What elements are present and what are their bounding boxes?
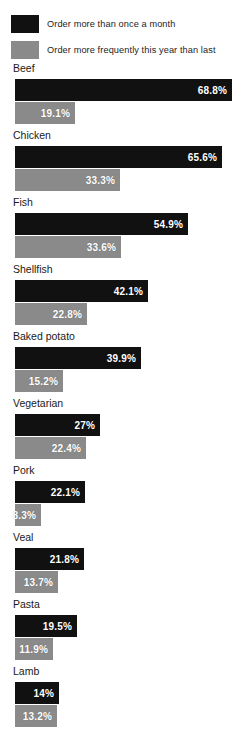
bar-group: Chicken65.6%33.3%	[0, 129, 247, 196]
bar-value-label: 42.1%	[114, 286, 143, 297]
category-label: Pork	[13, 464, 35, 477]
bar-group: Beef68.8%19.1%	[0, 62, 247, 129]
bar-value-label: 33.6%	[87, 242, 116, 253]
bar-group: Pork22.1%8.3%	[0, 464, 247, 531]
bar-value-label: 54.9%	[154, 219, 183, 230]
bar-value-label: 21.8%	[50, 554, 79, 565]
bar-value-label: 68.8%	[198, 85, 227, 96]
bar-value-label: 27%	[74, 420, 95, 431]
bar-value-label: 13.7%	[24, 577, 53, 588]
bar-group: Fish54.9%33.6%	[0, 196, 247, 263]
legend-item-secondary: Order more frequently this year than las…	[0, 40, 247, 60]
bar-value-label: 19.1%	[41, 108, 70, 119]
bar-secondary: 33.3%	[15, 169, 120, 191]
bar-value-label: 11.9%	[19, 644, 48, 655]
bar-value-label: 22.1%	[51, 487, 80, 498]
category-label: Baked potato	[13, 330, 75, 343]
category-label: Pasta	[13, 598, 40, 611]
bar-primary: 19.5%	[15, 615, 77, 637]
bar-primary: 22.1%	[15, 481, 85, 503]
bar-secondary: 22.8%	[15, 303, 87, 325]
bar-value-label: 22.4%	[52, 443, 81, 454]
bar-secondary: 22.4%	[15, 437, 86, 459]
bar-primary: 27%	[15, 414, 100, 436]
bar-value-label: 65.6%	[188, 152, 217, 163]
category-label: Chicken	[13, 129, 51, 142]
bar-primary: 42.1%	[15, 280, 148, 302]
bar-value-label: 15.2%	[29, 376, 58, 387]
bar-secondary: 8.3%	[15, 504, 41, 526]
bar-primary: 68.8%	[15, 79, 232, 101]
bar-primary: 21.8%	[15, 548, 84, 570]
bar-group: Lamb14%13.2%	[0, 665, 247, 731]
legend-item-primary: Order more than once a month	[0, 14, 247, 34]
bar-value-label: 33.3%	[86, 175, 115, 186]
bar-primary: 54.9%	[15, 213, 188, 235]
bar-value-label: 39.9%	[107, 353, 136, 364]
chart-legend: Order more than once a month Order more …	[0, 14, 247, 66]
legend-swatch-secondary-icon	[11, 41, 39, 59]
bar-secondary: 11.9%	[15, 638, 53, 660]
bar-secondary: 13.7%	[15, 571, 58, 593]
bar-value-label: 13.2%	[23, 711, 52, 722]
bar-primary: 65.6%	[15, 146, 222, 168]
bar-value-label: 22.8%	[53, 309, 82, 320]
category-label: Shellfish	[13, 263, 53, 276]
bar-secondary: 19.1%	[15, 102, 75, 124]
bar-group-list: Beef68.8%19.1%Chicken65.6%33.3%Fish54.9%…	[0, 62, 247, 731]
bar-secondary: 33.6%	[15, 236, 121, 258]
category-label: Lamb	[13, 665, 39, 678]
bar-secondary: 13.2%	[15, 705, 57, 727]
category-label: Veal	[13, 531, 33, 544]
bar-group: Shellfish42.1%22.8%	[0, 263, 247, 330]
bar-group: Pasta19.5%11.9%	[0, 598, 247, 665]
legend-label-primary: Order more than once a month	[47, 19, 175, 30]
legend-swatch-primary-icon	[11, 15, 39, 33]
bar-primary: 39.9%	[15, 347, 141, 369]
category-label: Fish	[13, 196, 33, 209]
bar-value-label: 14%	[33, 688, 54, 699]
bar-group: Baked potato39.9%15.2%	[0, 330, 247, 397]
bar-value-label: 19.5%	[43, 621, 72, 632]
bar-group: Vegetarian27%22.4%	[0, 397, 247, 464]
category-label: Vegetarian	[13, 397, 63, 410]
bar-value-label: 8.3%	[12, 510, 36, 521]
bar-secondary: 15.2%	[15, 370, 63, 392]
bar-primary: 14%	[15, 682, 59, 704]
bar-group: Veal21.8%13.7%	[0, 531, 247, 598]
legend-label-secondary: Order more frequently this year than las…	[47, 45, 216, 56]
category-label: Beef	[13, 62, 35, 75]
